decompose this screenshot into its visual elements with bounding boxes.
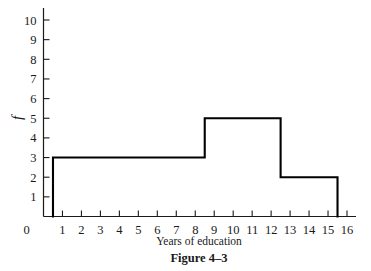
y-tick-label: 9 <box>30 33 36 47</box>
histogram-chart: 12345678910 012345678910111213141516 f Y… <box>0 0 371 271</box>
y-tick-label: 10 <box>24 14 37 28</box>
y-axis-tick-labels: 12345678910 <box>24 14 37 205</box>
x-tick-label: 14 <box>303 223 316 237</box>
x-tick-label: 5 <box>135 223 141 237</box>
figure-caption: Figure 4–3 <box>170 251 227 265</box>
x-tick-label: 2 <box>78 223 84 237</box>
y-tick-label: 8 <box>30 53 36 67</box>
x-tick-label: 15 <box>322 223 335 237</box>
y-tick-label: 3 <box>30 151 36 165</box>
histogram-bars <box>53 118 338 216</box>
y-tick-label: 2 <box>30 171 36 185</box>
x-tick-label: 13 <box>284 223 297 237</box>
x-tick-label: 12 <box>265 223 278 237</box>
y-tick-label: 4 <box>30 131 37 145</box>
y-axis-title: f <box>9 114 25 120</box>
x-axis-title: Years of education <box>156 235 242 247</box>
x-tick-label: 1 <box>59 223 65 237</box>
x-tick-label: 11 <box>246 223 258 237</box>
x-tick-label: 3 <box>97 223 103 237</box>
y-tick-label: 6 <box>30 92 36 106</box>
y-axis-ticks <box>44 20 50 197</box>
y-tick-label: 1 <box>30 190 36 204</box>
y-tick-label: 7 <box>30 72 36 86</box>
x-tick-label: 0 <box>23 223 29 237</box>
x-tick-label: 4 <box>116 223 123 237</box>
x-axis-ticks <box>62 211 347 217</box>
y-tick-label: 5 <box>30 112 36 126</box>
figure-container: 12345678910 012345678910111213141516 f Y… <box>0 0 371 271</box>
x-tick-label: 16 <box>341 223 354 237</box>
